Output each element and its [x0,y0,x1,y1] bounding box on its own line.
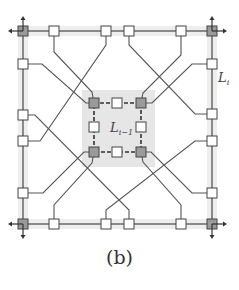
outer-node [207,136,217,146]
inner-node [112,98,122,108]
outer-node [176,219,186,229]
outer-node [207,59,217,69]
outer-node [124,219,134,229]
inner-node [89,122,99,132]
arrow-head-icon [8,29,12,34]
outer-node [207,109,217,119]
outer-node [124,26,134,36]
inner-corner-node [136,147,146,157]
inner-corner-node [136,98,146,108]
inner-corner-node [89,98,99,108]
outer-node [18,188,28,198]
arrow-head-icon [8,222,12,227]
arrow-head-icon [210,235,215,239]
arrow-head-icon [210,16,215,20]
arrow-head-icon [21,235,26,239]
arrow-head-icon [21,16,26,20]
outer-node [101,26,111,36]
outer-node [207,188,217,198]
outer-node [18,59,28,69]
arrow-head-icon [223,29,227,34]
inner-node [112,147,122,157]
outer-node [176,26,186,36]
outer-node [18,136,28,146]
inner-node [136,122,146,132]
outer-level-label: Li [217,70,230,87]
outer-node [49,219,59,229]
outer-node [101,219,111,229]
outer-node [49,26,59,36]
outer-node [18,110,28,120]
figure-caption: (b) [0,246,239,268]
arrow-head-icon [223,222,227,227]
inner-corner-node [89,147,99,157]
